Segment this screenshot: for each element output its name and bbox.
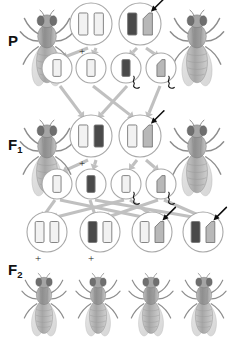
allele-bar-light-0 xyxy=(122,176,130,193)
allele-bar-light-1 xyxy=(103,222,112,243)
f2-fly-2 xyxy=(74,272,122,344)
allele-bar-dark-1 xyxy=(94,125,103,147)
allele-bar-light-0 xyxy=(79,125,88,147)
f2-fly-2-drawing xyxy=(74,272,122,344)
f2-fly-4-drawing xyxy=(180,272,228,344)
allele-bar-light-0 xyxy=(140,222,149,243)
f2-genotype-1-outline xyxy=(27,212,67,252)
allele-bar-dark-0 xyxy=(128,13,137,35)
allele-bar-light-1 xyxy=(50,222,59,243)
f2-genotype-4-pointer-arrow-icon xyxy=(213,207,226,220)
allele-bar-dark-0 xyxy=(191,222,200,243)
allele-bar-light-0 xyxy=(35,222,44,243)
allele-bar-dark-0 xyxy=(87,176,95,193)
p-gamete-4-graphic xyxy=(130,37,192,99)
p-gamete-4 xyxy=(130,37,192,99)
p-genotype-right-pointer-arrow-icon xyxy=(151,0,164,12)
genetics-cross-diagram: P F1 F2 ++++ xyxy=(0,0,242,344)
f2-fly-4 xyxy=(180,272,228,344)
allele-bar-dark-0 xyxy=(122,60,130,77)
f2-fly-3 xyxy=(127,272,175,344)
allele-bar-light-1 xyxy=(94,13,103,35)
f1-genotype-right-pointer-arrow-icon xyxy=(151,111,164,124)
allele-bar-light-0 xyxy=(79,13,88,35)
f2-genotype-2-wild-type-plus: + xyxy=(88,253,94,264)
f2-genotype-4 xyxy=(167,196,239,268)
f2-fly-1-drawing xyxy=(20,272,68,344)
f2-fly-3-drawing xyxy=(127,272,175,344)
allele-bar-light-0 xyxy=(128,125,137,147)
f2-fly-1 xyxy=(20,272,68,344)
allele-bar-dark-0 xyxy=(88,222,97,243)
f2-genotype-4-graphic xyxy=(167,196,239,268)
f2-genotype-2-outline xyxy=(80,212,120,252)
f2-genotype-1-wild-type-plus: + xyxy=(35,253,41,264)
allele-bar-light-0 xyxy=(87,60,95,77)
